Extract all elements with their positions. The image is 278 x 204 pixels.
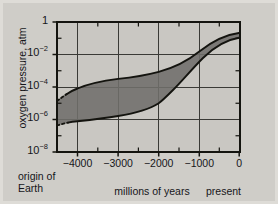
annotation-origin-line1: origin of bbox=[18, 170, 55, 182]
annotation-present: present bbox=[206, 185, 241, 197]
y-tick-label-1e-2: 10−2 bbox=[8, 47, 48, 59]
figure-container: 1 10−2 10−4 10−6 10−8 −4000 −3000 −2000 … bbox=[0, 0, 278, 204]
x-axis-title: millions of years bbox=[97, 185, 207, 197]
annotation-origin-of-earth: origin ofEarth bbox=[18, 171, 55, 195]
y-tick-label-1e-4: 10−4 bbox=[8, 80, 48, 92]
y-tick-label-1e-6: 10−6 bbox=[8, 112, 48, 124]
annotation-origin-line2: Earth bbox=[18, 182, 43, 194]
y-tick-label-1e-8: 10−8 bbox=[8, 145, 48, 157]
y-axis-title: oxygen pressure, atm bbox=[16, 8, 28, 148]
x-tick-label-zero: 0 bbox=[214, 158, 264, 169]
y-tick-label-1: 1 bbox=[8, 15, 48, 27]
